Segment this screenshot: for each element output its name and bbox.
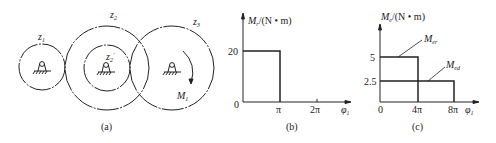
panel-c-xtick-8pi: 8π <box>448 104 458 115</box>
panel-b-ytick-0: 0 <box>234 99 239 110</box>
mer-series-label: Mer <box>423 33 438 45</box>
moment-label: M1 <box>176 90 188 102</box>
panel-c-xlabel: φ1 <box>465 104 474 116</box>
gear-z2prime-label: z2' <box>105 51 115 63</box>
panel-b-ylabel: Mr/(N • m) <box>247 15 292 27</box>
panel-c-xtick-4pi: 4π <box>412 104 422 115</box>
y-axis-arrow-icon <box>242 13 245 19</box>
panel-c-ylabel: Me/(N • m) <box>380 11 425 23</box>
gear-z1-label: z1 <box>37 31 45 43</box>
mer-leader-line <box>398 40 422 57</box>
y-axis-arrow-icon <box>379 24 382 30</box>
panel-c-ytick-2.5: 2.5 <box>364 76 377 87</box>
pivot-support-icon <box>163 63 181 75</box>
med-series-label: Med <box>445 59 461 71</box>
panel-b-caption: (b) <box>286 121 298 133</box>
med-series-line <box>380 81 454 102</box>
panel-c-ytick-5: 5 <box>370 52 375 63</box>
moment-arrow-icon <box>183 51 193 83</box>
panel-c-ytick-0: 0 <box>378 104 383 115</box>
panel-a-caption: (a) <box>101 121 112 133</box>
mr-series-line <box>243 51 280 102</box>
panel-b-ytick-20: 20 <box>228 46 238 57</box>
gear-z3-label: z3 <box>192 16 200 28</box>
moment-arrowhead-icon <box>189 79 193 84</box>
panel-b-xlabel: φ1 <box>341 104 350 116</box>
panel-c-caption: (c) <box>412 121 423 133</box>
gear-z2-outer-circle <box>65 26 149 110</box>
panel-b-xtick-pi: π <box>276 104 281 115</box>
gear-z3-circle <box>130 26 214 110</box>
panel-b-xtick-2pi: 2π <box>310 104 320 115</box>
mer-series-line <box>380 57 418 102</box>
gear-z1-circle <box>19 44 65 90</box>
gear-z2-label: z2 <box>109 9 117 21</box>
pivot-support-icon <box>33 62 51 74</box>
figure-canvas: z1 z2 z2' z3 M1 (a) Mr/(N • m) 20 0 π 2π… <box>0 0 496 143</box>
med-leader-line <box>428 67 445 81</box>
pivot-support-icon <box>97 63 115 75</box>
x-axis-arrow-icon <box>473 101 479 104</box>
